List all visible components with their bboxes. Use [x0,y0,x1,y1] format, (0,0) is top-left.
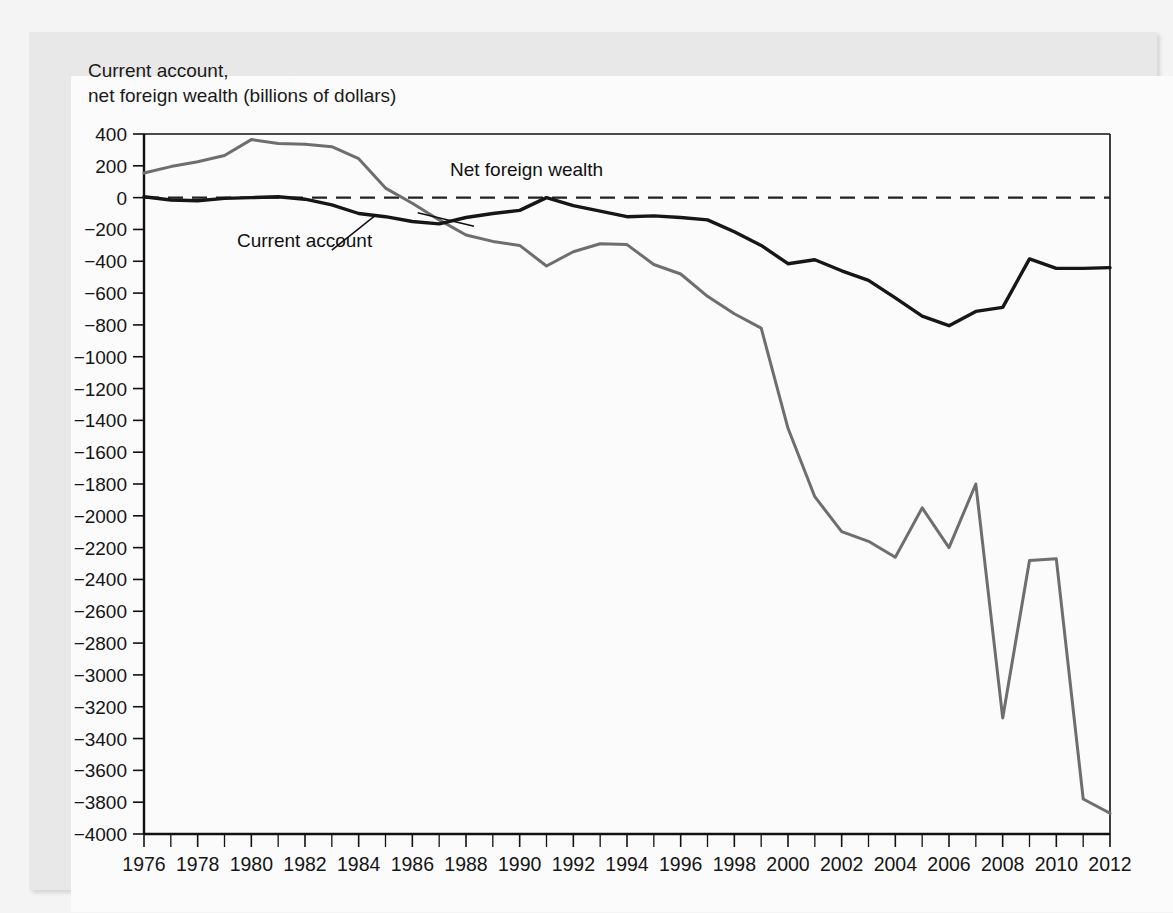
figure-frame [29,32,1157,890]
figure-inner-panel [71,76,1173,912]
page-background: than a century ago, in 1837. The country… [0,0,1173,913]
axis-caption: Current account, net foreign wealth (bil… [88,58,396,108]
